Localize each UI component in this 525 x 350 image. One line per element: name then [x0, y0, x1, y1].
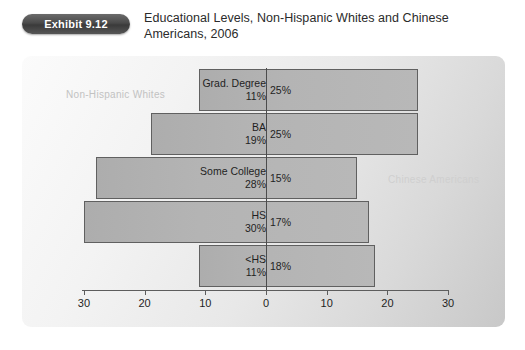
x-axis-tick	[84, 290, 85, 295]
exhibit-title: Educational Levels, Non-Hispanic Whites …	[144, 10, 504, 42]
bar-value-left: 30%	[106, 222, 266, 235]
bar-value-right: 17%	[266, 216, 330, 229]
bar-label-left: <HS11%	[106, 253, 269, 278]
bar-label-left: HS30%	[106, 209, 269, 234]
bar-category-label: HS	[106, 209, 266, 222]
x-axis-tick-label: 30	[442, 297, 454, 309]
x-axis-tick-label: 20	[138, 297, 150, 309]
x-axis-tick-label: 30	[78, 297, 90, 309]
x-axis-tick	[145, 290, 146, 295]
bar-category-label: BA	[106, 121, 266, 134]
bar-value-left: 19%	[106, 134, 266, 147]
exhibit-header: Exhibit 9.12 Educational Levels, Non-His…	[0, 0, 525, 55]
x-axis-line	[82, 290, 448, 291]
bar-category-label: Grad. Degree	[106, 77, 266, 90]
x-axis-tick	[266, 290, 267, 295]
bar-label-left: BA19%	[106, 121, 269, 146]
x-axis-tick	[448, 290, 449, 295]
x-axis-tick-label: 20	[381, 297, 393, 309]
center-axis-line	[266, 68, 267, 291]
bar-label-left: Some College28%	[106, 165, 269, 190]
x-axis-tick	[205, 290, 206, 295]
bar-value-left: 11%	[106, 266, 266, 279]
bar-value-right: 15%	[266, 172, 330, 185]
legend-label-chinese-americans: Chinese Americans	[388, 174, 479, 185]
x-axis-tick	[327, 290, 328, 295]
bar-value-right: 25%	[266, 84, 330, 97]
bar-value-left: 28%	[106, 178, 266, 191]
bar-value-right: 25%	[266, 128, 330, 141]
bar-value-left: 11%	[106, 90, 266, 103]
bar-category-label: Some College	[106, 165, 266, 178]
chart-panel: Non-Hispanic Whites Chinese Americans Gr…	[22, 56, 505, 327]
x-axis-tick-label: 0	[263, 297, 269, 309]
x-axis-tick-label: 10	[321, 297, 333, 309]
bar-label-left: Grad. Degree11%	[106, 77, 269, 102]
bar-value-right: 18%	[266, 260, 330, 273]
bar-category-label: <HS	[106, 253, 266, 266]
exhibit-number-badge: Exhibit 9.12	[22, 14, 130, 34]
x-axis-tick	[387, 290, 388, 295]
x-axis-tick-label: 10	[199, 297, 211, 309]
